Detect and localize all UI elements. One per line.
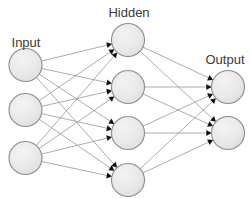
neural-network-diagram: Input Hidden Output [0, 0, 251, 199]
connection-edge [42, 161, 112, 176]
connection-arrowhead [108, 96, 114, 101]
neuron-node-h4[interactable] [112, 164, 145, 197]
layer-label-hidden: Hidden [108, 5, 149, 20]
neuron-node-o2[interactable] [212, 117, 245, 150]
connection-arrowhead [206, 130, 211, 136]
layer-label-output: Output [205, 52, 244, 67]
network-canvas: Input Hidden Output [0, 0, 251, 199]
connection-arrowhead [106, 135, 112, 141]
connection-arrowhead [206, 84, 211, 90]
neuron-node-h2[interactable] [112, 71, 145, 104]
neuron-node-i2[interactable] [9, 94, 42, 127]
connection-arrowhead [106, 125, 112, 131]
arrowheads-group [106, 42, 216, 178]
connection-arrowhead [106, 89, 112, 95]
neuron-node-h1[interactable] [112, 24, 145, 57]
connection-arrowhead [108, 119, 114, 124]
neuron-node-i3[interactable] [9, 142, 42, 175]
connection-edge [140, 98, 216, 169]
connection-edge [39, 119, 114, 170]
layer-label-input: Input [12, 35, 41, 50]
connections-group [36, 44, 216, 177]
neuron-node-o1[interactable] [212, 71, 245, 104]
connection-edge [39, 49, 114, 100]
connection-edge [36, 52, 117, 145]
neuron-node-i1[interactable] [9, 49, 42, 82]
connection-arrowhead [106, 80, 112, 86]
connection-arrowhead [106, 173, 112, 179]
connection-arrowhead [106, 42, 112, 48]
neuron-node-h3[interactable] [112, 117, 145, 150]
nodes-group [9, 24, 245, 197]
